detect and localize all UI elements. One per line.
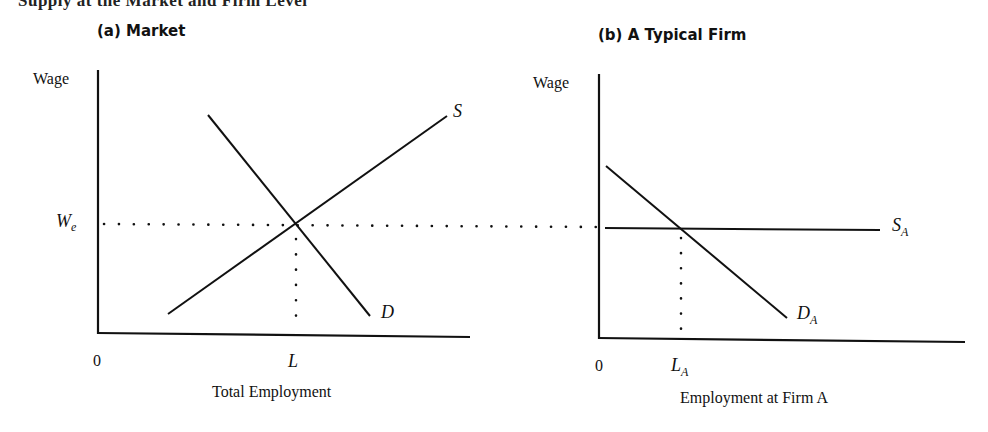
panel-b-supply-curve [605,228,880,230]
panel-b-origin-label: 0 [595,357,603,375]
panel-b-demand-curve [606,166,787,318]
panel-b-demand-label: DA [797,303,817,324]
panel-a-l-label: L [288,351,298,372]
panel-a-supply-curve [168,116,447,314]
panel-a-origin-label: 0 [93,352,101,370]
panel-a-supply-label: S [453,101,462,122]
panel-a-x-axis [97,333,470,337]
panel-b-x-axis-label: Employment at Firm A [680,389,828,407]
panel-a-demand-label: D [381,302,394,323]
wage-equilibrium-label: We [56,211,76,232]
panel-a-x-axis-label: Total Employment [212,383,331,401]
chart-graphics [0,0,988,432]
panel-a-y-axis-label: Wage [33,70,69,88]
panel-b-supply-label: SA [892,215,908,236]
panel-b-y-axis-label: Wage [533,74,569,92]
panel-b-x-axis [598,338,965,342]
panel-a-demand-curve [208,115,370,316]
wage-equilibrium-dotted-line [104,224,596,227]
panel-b-la-label: LA [671,355,688,376]
